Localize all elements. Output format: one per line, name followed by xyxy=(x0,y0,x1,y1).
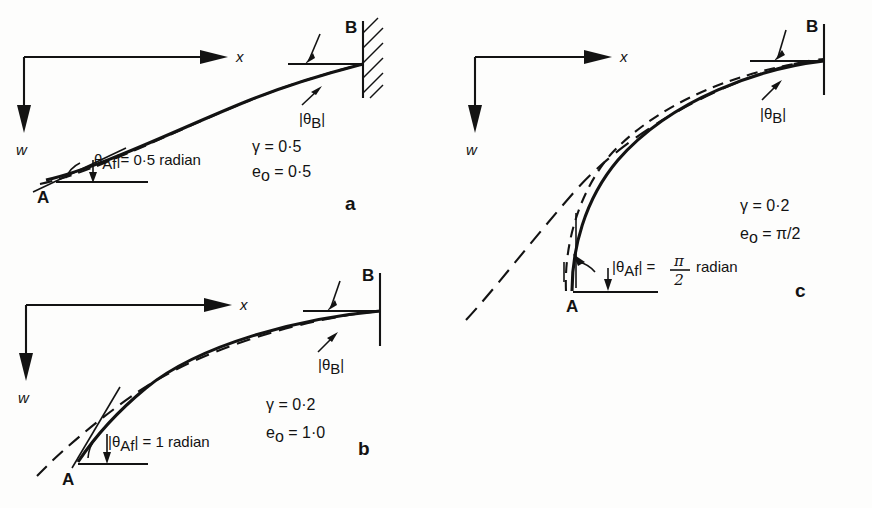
param-row-e0: eo = 1·0 xyxy=(266,424,325,445)
x-axis-arrowhead xyxy=(584,50,612,64)
theta-b-label-group-a: |θB| xyxy=(299,86,325,131)
param-block-b: γ = 0·2 eo = 1·0 xyxy=(266,396,325,445)
node-label-a: A xyxy=(62,470,74,489)
wall-hatch-1 xyxy=(363,18,378,33)
theta-b-upper-arrow xyxy=(305,34,320,64)
w-axis-label: w xyxy=(466,141,478,158)
node-label-b: B xyxy=(806,17,818,36)
theta-b-upper-arrow-shaft xyxy=(309,34,320,60)
beam-curve-solid-c xyxy=(572,61,824,291)
theta-b-label-group-c: |θB| xyxy=(760,80,786,126)
theta-b-label: |θB| xyxy=(760,105,786,126)
wall-group-a xyxy=(363,18,383,98)
x-axis-arrowhead xyxy=(200,50,228,64)
panel-b: x w B A xyxy=(0,248,440,508)
theta-af-arrowhead xyxy=(604,279,612,291)
wall-hatch-6 xyxy=(370,85,383,98)
tangent-line-b xyxy=(72,387,120,468)
param-row-e0: eo = π/2 xyxy=(740,225,801,246)
w-axis-arrowhead xyxy=(19,353,33,381)
panel-a: x w B xyxy=(0,0,440,240)
w-axis-arrowhead xyxy=(468,105,482,133)
theta-b-upper-arrow xyxy=(327,281,340,311)
theta-af-angle-arrow-c xyxy=(573,254,612,291)
param-block-a: γ = 0·5 eo = 0·5 xyxy=(252,138,311,184)
param-row-gamma: γ = 0·5 xyxy=(252,138,301,155)
param-row-gamma: γ = 0·2 xyxy=(740,197,789,214)
node-label-b: B xyxy=(362,266,374,285)
x-axis-arrowhead xyxy=(204,298,232,312)
panel-letter-c: c xyxy=(795,280,806,301)
node-label-b: B xyxy=(345,18,357,37)
x-axis-label: x xyxy=(235,48,244,65)
theta-b-leader-arrowhead xyxy=(311,86,322,95)
param-block-c: γ = 0·2 eo = π/2 xyxy=(740,197,801,246)
theta-af-fraction-numerator: π xyxy=(673,252,685,270)
theta-b-label: |θB| xyxy=(318,356,344,377)
panel-letter-a: a xyxy=(345,193,356,214)
theta-af-fraction-denominator: 2 xyxy=(673,271,684,289)
theta-b-upper-arrowhead xyxy=(327,300,337,311)
param-row-e0: eo = 0·5 xyxy=(252,163,311,184)
theta-af-label-b: |θAf| = 1 radian xyxy=(108,433,210,454)
w-axis-label: w xyxy=(18,389,30,406)
theta-af-label-a: θAf|= 0·5 radian xyxy=(94,151,201,172)
w-axis-label: w xyxy=(16,141,28,158)
node-label-a: A xyxy=(37,188,49,207)
w-axis-arrowhead xyxy=(17,105,31,133)
theta-af-label-group-c: |θAf| = π 2 radian xyxy=(612,252,738,289)
theta-b-upper-arrowhead xyxy=(305,53,315,64)
theta-b-label: |θB| xyxy=(299,110,325,131)
axis-group-a: x w xyxy=(16,48,244,158)
x-axis-label: x xyxy=(239,296,248,313)
x-axis-label: x xyxy=(619,48,628,65)
panel-c: x w B A xyxy=(432,0,872,330)
node-label-a: A xyxy=(566,297,578,316)
axis-group-c: x w xyxy=(466,48,628,158)
theta-af-label-c: |θAf| = xyxy=(612,258,656,279)
param-row-gamma: γ = 0·2 xyxy=(266,396,315,413)
figure-container: x w B xyxy=(0,0,872,508)
theta-af-arrowhead xyxy=(103,452,111,464)
beam-curve-long-dashed-c xyxy=(466,59,824,320)
theta-af-unit: radian xyxy=(696,258,738,275)
theta-b-label-group-b: |θB| xyxy=(318,332,344,377)
theta-b-upper-arrow xyxy=(774,30,786,61)
panel-letter-b: b xyxy=(358,438,370,459)
